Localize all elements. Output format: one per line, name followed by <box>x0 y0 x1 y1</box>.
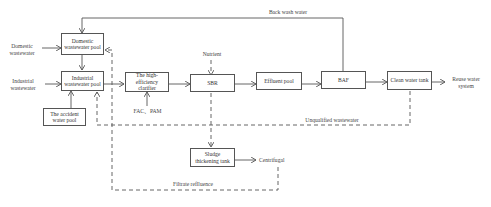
baf-label: BAF <box>338 77 349 84</box>
fac-pam-label: FAC、PAM <box>130 108 165 115</box>
high-efficiency-clarifier-label: The high-efficiency clarifier <box>128 72 166 92</box>
accident-water-pool-node: The accident water pool <box>43 108 86 126</box>
back-wash-water-label: Back wash water <box>258 9 318 16</box>
sbr-label: SBR <box>207 80 218 87</box>
nutrient-label: Nutrient <box>197 51 227 58</box>
unqualified-wastewater-label: Unqualified wastewater <box>296 117 368 124</box>
accident-water-pool-label: The accident water pool <box>46 111 83 124</box>
sludge-thickening-tank-node: Sludge thickening tank <box>190 148 235 167</box>
domestic-wastewater-pool-label: Domestic wastewater pool <box>64 38 101 51</box>
industrial-wastewater-input-label: Industrial wastewater <box>4 78 42 91</box>
industrial-wastewater-pool-label: Industrial wastewater pool <box>64 75 101 88</box>
domestic-wastewater-pool-node: Domestic wastewater pool <box>61 33 104 55</box>
industrial-wastewater-pool-node: Industrial wastewater pool <box>61 71 104 91</box>
connector-lines <box>0 0 491 207</box>
centrifugal-label: Centrifugal <box>259 157 299 164</box>
filtrate-reflluence-label: Filtrate reflluence <box>168 181 218 188</box>
process-flow-diagram: Domestic wastewater pool Industrial wast… <box>0 0 491 207</box>
clean-water-tank-node: Clean water tank <box>387 71 432 90</box>
sludge-thickening-tank-label: Sludge thickening tank <box>193 151 232 164</box>
reuse-water-system-label: Reuse water system <box>448 76 484 89</box>
effluent-pool-label: Effluent pool <box>264 78 294 85</box>
clean-water-tank-label: Clean water tank <box>391 77 429 84</box>
domestic-wastewater-input-label: Domestic wastewater <box>4 43 40 56</box>
effluent-pool-node: Effluent pool <box>256 72 302 90</box>
baf-node: BAF <box>321 71 366 89</box>
sbr-node: SBR <box>190 74 235 92</box>
high-efficiency-clarifier-node: The high-efficiency clarifier <box>125 72 169 92</box>
